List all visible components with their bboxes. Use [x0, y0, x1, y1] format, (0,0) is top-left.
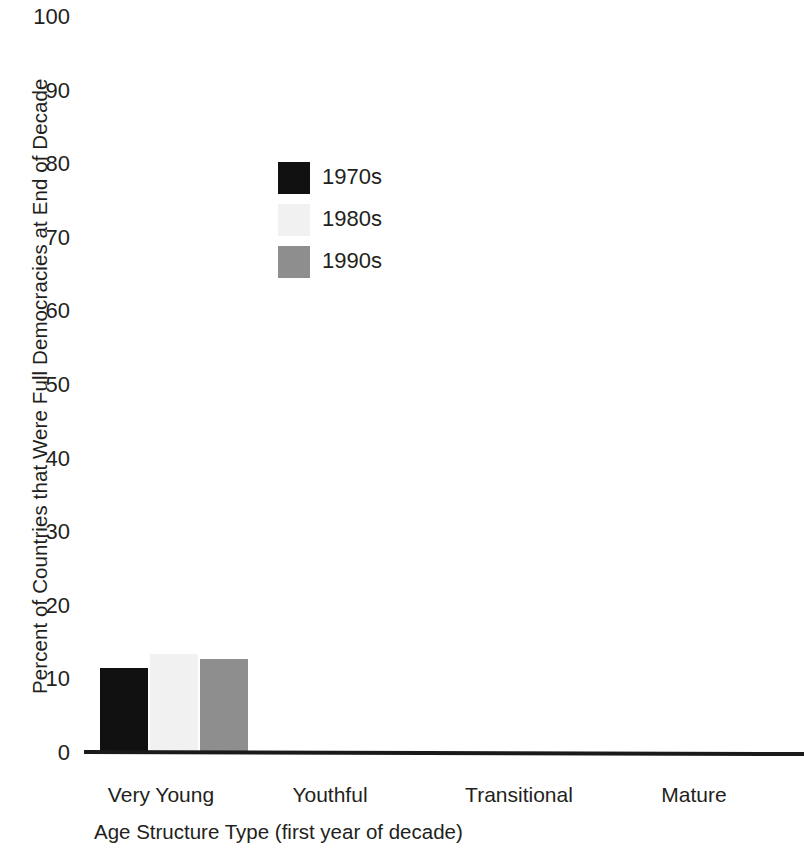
legend-label-1970s: 1970s [322, 164, 382, 191]
y-axis-tick-60: 60 [0, 300, 70, 322]
bar-very-young-1990s [200, 659, 248, 753]
y-axis-tick-100: 100 [0, 6, 70, 28]
x-axis-label-mature: Mature [544, 784, 804, 805]
y-axis-tick-50: 50 [0, 374, 70, 396]
y-axis-tick-80: 80 [0, 153, 70, 175]
y-axis-tick-90: 90 [0, 80, 70, 102]
bar-chart: Percent of Countries that Were Full Demo… [0, 0, 804, 851]
y-axis-tick-30: 30 [0, 521, 70, 543]
legend-swatch-1980s [278, 204, 310, 236]
y-axis-tick-70: 70 [0, 227, 70, 249]
legend-label-1980s: 1980s [322, 206, 382, 233]
y-axis-tick-10: 10 [0, 668, 70, 690]
legend-label-1990s: 1990s [322, 248, 382, 275]
x-axis-title: Age Structure Type (first year of decade… [94, 822, 463, 843]
legend-swatch-1970s [278, 162, 310, 194]
y-axis-tick-0: 0 [0, 742, 70, 764]
legend-swatch-1990s [278, 246, 310, 278]
y-axis-tick-40: 40 [0, 448, 70, 470]
bar-very-young-1980s [150, 654, 198, 753]
y-axis-tick-20: 20 [0, 595, 70, 617]
bar-very-young-1970s [100, 668, 148, 753]
x-axis-line [84, 750, 804, 756]
